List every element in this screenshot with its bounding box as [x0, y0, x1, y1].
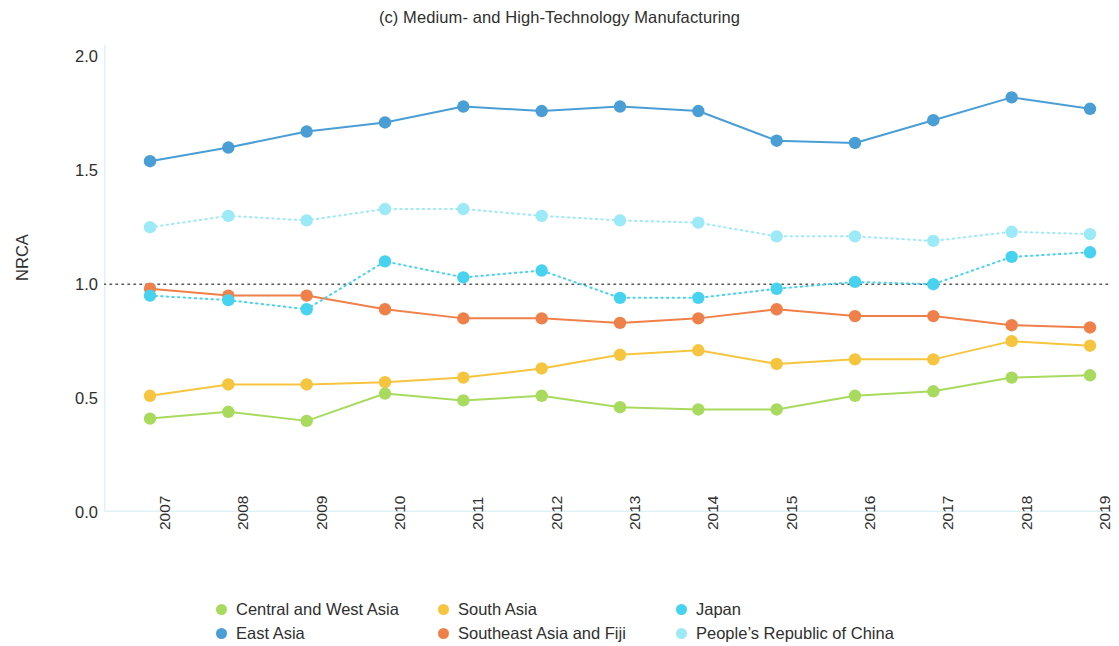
chart-canvas — [104, 45, 1112, 512]
x-tick-label: 2010 — [391, 496, 409, 530]
x-tick-label: 2016 — [861, 496, 879, 530]
x-tick-label: 2007 — [156, 496, 174, 530]
y-tick-label: 1.0 — [52, 275, 98, 294]
chart-title: (c) Medium- and High-Technology Manufact… — [0, 8, 1119, 27]
legend-label: Central and West Asia — [236, 600, 399, 619]
legend-label: Southeast Asia and Fiji — [458, 624, 626, 643]
x-tick-label: 2018 — [1018, 496, 1036, 530]
chart-legend: Central and West AsiaSouth AsiaJapanEast… — [216, 598, 956, 644]
series-5 — [144, 203, 1096, 247]
legend-item[interactable]: Japan — [676, 598, 741, 620]
series-3 — [144, 283, 1096, 334]
legend-swatch-dot-icon — [438, 628, 449, 639]
series-4 — [144, 246, 1096, 315]
legend-label: South Asia — [458, 600, 537, 619]
x-tick-label: 2013 — [626, 496, 644, 530]
legend-item[interactable]: East Asia — [216, 622, 305, 644]
x-axis-tick-labels: 2007200820092010201120122013201420152016… — [104, 512, 1112, 592]
x-tick-label: 2012 — [548, 496, 566, 530]
series-0 — [144, 369, 1096, 427]
y-tick-label: 1.5 — [52, 161, 98, 180]
legend-label: Japan — [696, 600, 741, 619]
legend-item[interactable]: South Asia — [438, 598, 537, 620]
plot-area — [104, 45, 1112, 512]
x-tick-label: 2015 — [783, 496, 801, 530]
series-1 — [144, 91, 1096, 167]
legend-item[interactable]: Central and West Asia — [216, 598, 399, 620]
legend-swatch-dot-icon — [676, 628, 687, 639]
legend-swatch-dot-icon — [438, 604, 449, 615]
x-tick-label: 2017 — [939, 496, 957, 530]
x-tick-label: 2014 — [704, 496, 722, 530]
x-tick-label: 2009 — [313, 496, 331, 530]
x-tick-label: 2019 — [1096, 496, 1114, 530]
legend-item[interactable]: People’s Republic of China — [676, 622, 894, 644]
y-axis-title: NRCA — [13, 218, 32, 298]
legend-swatch-dot-icon — [676, 604, 687, 615]
y-tick-label: 2.0 — [52, 47, 98, 66]
x-tick-label: 2011 — [469, 497, 487, 530]
y-tick-label: 0.5 — [52, 389, 98, 408]
legend-swatch-dot-icon — [216, 628, 227, 639]
chart-figure: (c) Medium- and High-Technology Manufact… — [0, 0, 1119, 646]
legend-item[interactable]: Southeast Asia and Fiji — [438, 622, 626, 644]
series-2 — [144, 335, 1096, 402]
legend-label: People’s Republic of China — [696, 624, 894, 643]
y-tick-label: 0.0 — [52, 503, 98, 522]
y-axis-tick-labels: 0.00.51.01.52.0 — [42, 45, 98, 512]
x-tick-label: 2008 — [234, 496, 252, 530]
legend-swatch-dot-icon — [216, 604, 227, 615]
legend-label: East Asia — [236, 624, 305, 643]
